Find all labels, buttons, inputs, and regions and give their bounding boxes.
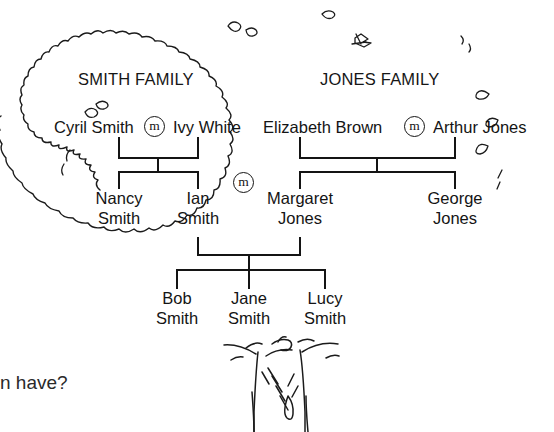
person-jane-smith-first: Jane <box>228 288 270 308</box>
family-tree-diagram: SMITH FAMILY JONES FAMILY Cyril Smith m … <box>0 0 554 432</box>
person-margaret-jones: Margaret Jones <box>267 188 333 228</box>
person-ivy-white: Ivy White <box>173 117 241 137</box>
person-george-jones-last: Jones <box>427 208 482 228</box>
person-nancy-smith-last: Smith <box>96 208 143 228</box>
person-bob-smith-last: Smith <box>156 308 198 328</box>
person-jane-smith-last: Smith <box>228 308 270 328</box>
heading-smith-family: SMITH FAMILY <box>78 70 194 89</box>
person-jane-smith: Jane Smith <box>228 288 270 328</box>
person-ian-smith-first: Ian <box>177 188 219 208</box>
person-ian-smith-last: Smith <box>177 208 219 228</box>
person-margaret-jones-first: Margaret <box>267 188 333 208</box>
smith-parents-bracket <box>119 138 198 158</box>
person-george-jones-first: George <box>427 188 482 208</box>
person-cyril-smith: Cyril Smith <box>54 117 134 137</box>
person-lucy-smith: Lucy Smith <box>304 288 346 328</box>
ian-margaret-bracket <box>198 238 300 255</box>
person-ian-smith: Ian Smith <box>177 188 219 228</box>
heading-jones-family: JONES FAMILY <box>320 70 439 89</box>
person-arthur-jones: Arthur Jones <box>433 117 527 137</box>
person-nancy-smith-first: Nancy <box>96 188 143 208</box>
person-bob-smith: Bob Smith <box>156 288 198 328</box>
caption-text-fragment: n have? <box>0 372 68 394</box>
marriage-symbol-ian-margaret: m <box>233 172 254 193</box>
person-margaret-jones-last: Jones <box>267 208 333 228</box>
person-nancy-smith: Nancy Smith <box>96 188 143 228</box>
person-lucy-smith-last: Smith <box>304 308 346 328</box>
person-elizabeth-brown: Elizabeth Brown <box>263 117 382 137</box>
person-lucy-smith-first: Lucy <box>304 288 346 308</box>
person-george-jones: George Jones <box>427 188 482 228</box>
jones-parents-bracket <box>300 138 455 158</box>
marriage-symbol-jones-couple: m <box>404 116 425 137</box>
marriage-symbol-smith-couple: m <box>144 116 165 137</box>
family-tree-page: SMITH FAMILY JONES FAMILY Cyril Smith m … <box>0 0 554 432</box>
person-bob-smith-first: Bob <box>156 288 198 308</box>
